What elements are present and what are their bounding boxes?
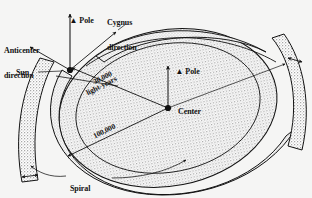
label-spiral-arms: Spiral arms — [70, 168, 90, 198]
anticenter-line1: Anticenter — [4, 47, 39, 55]
center-dot-icon — [165, 105, 171, 111]
galaxy-illustration — [0, 0, 312, 198]
pole-center-arrow-icon: ▲ — [176, 67, 184, 76]
label-cygnus-direction: Cygnus direction — [107, 2, 137, 69]
cygnus-line1: Cygnus — [107, 19, 137, 27]
label-pole-top: ▲ Pole — [62, 9, 94, 34]
pole-top-arrow-icon: ▲ — [70, 16, 78, 25]
label-sun: Sun — [16, 69, 29, 77]
sun-dot-icon — [67, 67, 73, 73]
cygnus-line2: direction — [107, 44, 137, 52]
label-center: Center — [178, 108, 201, 116]
label-pole-center: ▲ Pole — [168, 60, 200, 85]
spiral-line1: Spiral — [70, 185, 90, 193]
galaxy-diagram-figure: ▲ Pole Cygnus direction Anticenter direc… — [0, 0, 312, 198]
label-anticenter-direction: Anticenter direction — [4, 30, 39, 97]
